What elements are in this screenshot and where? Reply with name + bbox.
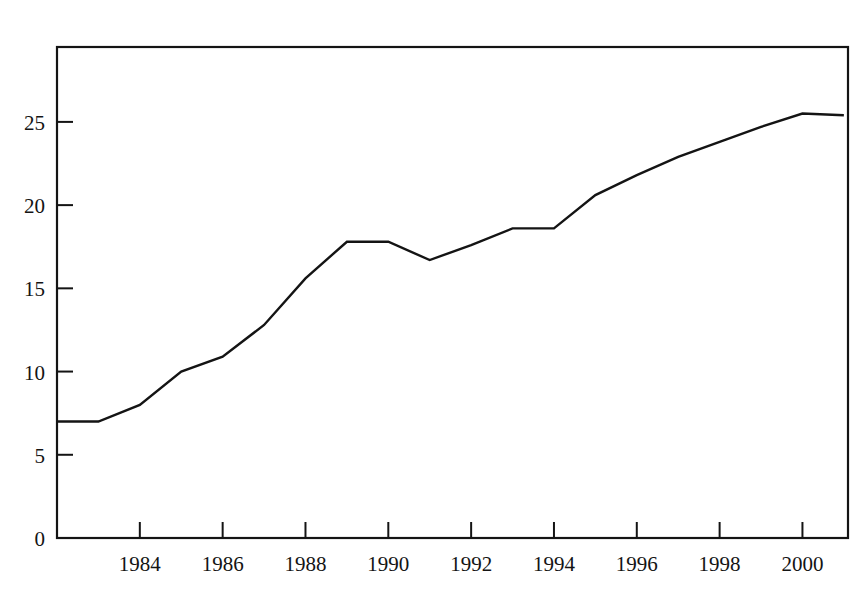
y-tick-label-15: 15 — [24, 277, 45, 301]
line-chart-svg: 0510152025 19841986198819901992199419961… — [0, 0, 862, 602]
y-tick-label-5: 5 — [35, 444, 46, 468]
x-tick-label-1984: 1984 — [119, 552, 162, 576]
x-axis-tick-labels: 198419861988199019921994199619982000 — [119, 552, 824, 576]
y-tick-label-10: 10 — [24, 361, 45, 385]
y-tick-label-0: 0 — [35, 527, 46, 551]
x-tick-label-1996: 1996 — [616, 552, 658, 576]
chart-background — [0, 0, 862, 602]
x-tick-label-2000: 2000 — [781, 552, 823, 576]
x-tick-label-1990: 1990 — [367, 552, 409, 576]
x-tick-label-1986: 1986 — [202, 552, 244, 576]
chart-container: Hours per person 0510152025 198419861988… — [0, 0, 862, 602]
x-tick-label-1988: 1988 — [284, 552, 326, 576]
x-tick-label-1998: 1998 — [699, 552, 741, 576]
x-tick-label-1994: 1994 — [533, 552, 576, 576]
x-tick-label-1992: 1992 — [450, 552, 492, 576]
y-tick-label-20: 20 — [24, 194, 45, 218]
y-tick-label-25: 25 — [24, 111, 45, 135]
